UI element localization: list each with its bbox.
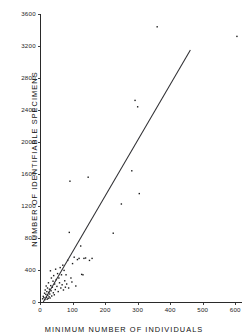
data-point — [137, 106, 138, 107]
y-axis-title-text: NUMBER OF IDENTIFIABLE SPECIMENS — [30, 71, 39, 246]
data-point — [65, 287, 66, 288]
data-point — [51, 295, 52, 296]
tick-labels-group: 0400800120016002000240028003200360001002… — [21, 10, 241, 313]
data-point — [134, 100, 135, 101]
x-tick-label: 100 — [67, 306, 78, 313]
data-point — [61, 284, 62, 285]
data-point — [63, 270, 64, 271]
x-tick-label: 0 — [38, 306, 42, 313]
data-point — [68, 287, 69, 288]
data-point — [63, 289, 64, 290]
data-point — [65, 274, 66, 275]
data-point — [236, 36, 237, 37]
data-point — [64, 280, 65, 281]
data-point — [87, 177, 88, 178]
data-point — [45, 294, 46, 295]
data-point — [55, 289, 56, 290]
y-tick-label: 0 — [32, 298, 36, 305]
data-point — [47, 298, 48, 299]
axes-group — [40, 14, 242, 303]
data-point — [121, 203, 122, 204]
data-point — [70, 277, 71, 278]
data-point — [46, 291, 47, 292]
data-point — [131, 170, 132, 171]
data-point — [62, 265, 63, 266]
data-point — [45, 285, 46, 286]
x-axis-title: MINIMUM NUMBER OF INDIVIDUALS — [0, 318, 248, 336]
data-point — [78, 258, 79, 259]
data-point — [50, 285, 51, 286]
data-point — [66, 283, 67, 284]
x-tick-label: 400 — [165, 306, 176, 313]
data-point — [89, 260, 90, 261]
data-point — [59, 267, 60, 268]
data-point — [113, 233, 114, 234]
regression-line-group — [43, 50, 190, 302]
data-point — [58, 291, 59, 292]
data-point — [82, 274, 83, 275]
data-point — [51, 277, 52, 278]
x-tick-label: 500 — [197, 306, 208, 313]
data-point — [54, 294, 55, 295]
y-tick-label: 3600 — [21, 10, 36, 17]
x-axis-title-text: MINIMUM NUMBER OF INDIVIDUALS — [45, 325, 204, 334]
scatter-plot-figure: 0400800120016002000240028003200360001002… — [0, 0, 248, 336]
data-point — [50, 270, 51, 271]
data-point — [48, 282, 49, 283]
data-point — [57, 273, 58, 274]
data-point — [60, 287, 61, 288]
data-point — [81, 274, 82, 275]
y-axis-title: NUMBER OF IDENTIFIABLE SPECIMENS — [23, 39, 41, 279]
data-point — [85, 257, 86, 258]
data-point — [49, 297, 50, 298]
data-point — [73, 257, 74, 258]
data-point — [56, 286, 57, 287]
data-points-group — [42, 26, 238, 300]
data-point — [75, 285, 76, 286]
data-point — [43, 297, 44, 298]
data-point — [80, 245, 81, 246]
data-point — [69, 181, 70, 182]
data-point — [59, 282, 60, 283]
data-point — [53, 292, 54, 293]
data-point — [58, 277, 59, 278]
data-point — [43, 296, 44, 297]
data-point — [71, 281, 72, 282]
x-tick-label: 300 — [132, 306, 143, 313]
data-point — [83, 258, 84, 259]
data-point — [53, 275, 54, 276]
data-point — [72, 263, 73, 264]
data-point — [48, 296, 49, 297]
x-tick-label: 600 — [230, 306, 241, 313]
data-point — [45, 289, 46, 290]
x-tick-label: 200 — [100, 306, 111, 313]
data-point — [156, 26, 157, 27]
data-point — [61, 274, 62, 275]
data-point — [44, 293, 45, 294]
data-point — [49, 293, 50, 294]
data-point — [139, 193, 140, 194]
data-point — [77, 259, 78, 260]
regression-line — [43, 50, 190, 302]
data-point — [55, 269, 56, 270]
data-point — [42, 298, 43, 299]
data-point — [91, 258, 92, 259]
data-point — [69, 232, 70, 233]
data-point — [52, 281, 53, 282]
data-point — [47, 287, 48, 288]
